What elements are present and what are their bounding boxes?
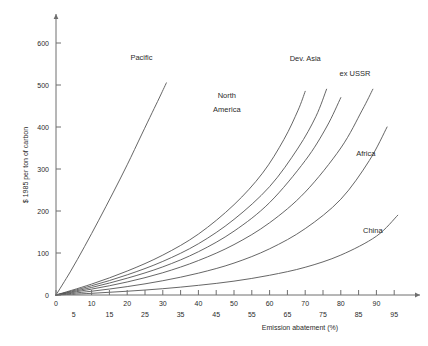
x-tick-label-major: 90 — [373, 300, 381, 307]
x-tick-label-minor: 25 — [141, 311, 149, 318]
series-curve-unlabelled — [56, 98, 341, 295]
series-label-north-america-line2: America — [213, 105, 241, 114]
x-tick-label-major: 80 — [337, 300, 345, 307]
x-tick-label-minor: 75 — [319, 311, 327, 318]
x-tick-label-major: 20 — [123, 300, 131, 307]
y-axis-title: $ 1985 per ton of carbon — [22, 127, 30, 203]
x-tick-label-minor: 65 — [284, 311, 292, 318]
y-tick-label: 0 — [45, 292, 49, 299]
y-tick-label: 500 — [37, 82, 49, 89]
y-tick-label: 600 — [37, 40, 49, 47]
series-curve-pacific — [56, 83, 166, 295]
x-tick-label-minor: 85 — [355, 311, 363, 318]
chart-container: 0100200300400500600010203040506070809051… — [0, 0, 428, 346]
series-label-ex-ussr: ex USSR — [340, 69, 371, 78]
x-tick-label-major: 60 — [266, 300, 274, 307]
emission-abatement-cost-chart: 0100200300400500600010203040506070809051… — [0, 0, 428, 346]
series-label-north-america: North — [218, 91, 236, 100]
series-label-dev-asia: Dev. Asia — [290, 54, 322, 63]
x-tick-label-major: 70 — [301, 300, 309, 307]
x-axis-title: Emission abatement (%) — [262, 324, 338, 332]
x-tick-label-minor: 5 — [72, 311, 76, 318]
series-layer — [56, 83, 398, 295]
x-tick-label-minor: 95 — [390, 311, 398, 318]
series-curve-north-america — [56, 91, 305, 295]
series-curve-china — [56, 215, 398, 295]
x-tick-label-major: 0 — [54, 300, 58, 307]
y-tick-label: 300 — [37, 166, 49, 173]
y-tick-label: 400 — [37, 124, 49, 131]
x-tick-label-major: 10 — [88, 300, 96, 307]
x-tick-label-minor: 45 — [212, 311, 220, 318]
y-tick-label: 100 — [37, 250, 49, 257]
y-tick-label: 200 — [37, 208, 49, 215]
x-axis-arrow-icon — [415, 293, 420, 298]
x-tick-label-minor: 55 — [248, 311, 256, 318]
series-curve-dev-asia — [56, 89, 327, 295]
series-label-china: China — [363, 226, 383, 235]
x-tick-label-minor: 35 — [177, 311, 185, 318]
y-axis-arrow-icon — [54, 14, 59, 19]
x-tick-label-major: 40 — [195, 300, 203, 307]
x-tick-label-major: 30 — [159, 300, 167, 307]
axes-layer: 0100200300400500600010203040506070809051… — [37, 14, 420, 318]
series-curve-ex-ussr — [56, 89, 373, 295]
x-tick-label-major: 50 — [230, 300, 238, 307]
series-label-pacific: Pacific — [130, 53, 152, 62]
series-label-africa: Africa — [356, 149, 376, 158]
x-tick-label-minor: 15 — [106, 311, 114, 318]
